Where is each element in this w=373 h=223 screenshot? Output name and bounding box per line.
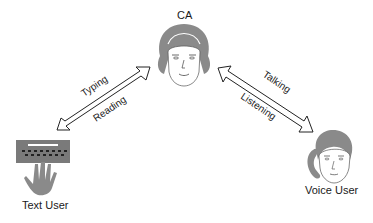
voice-user-label: Voice User — [305, 184, 358, 196]
diagram: CA Typing Reading Talking — [0, 0, 373, 223]
